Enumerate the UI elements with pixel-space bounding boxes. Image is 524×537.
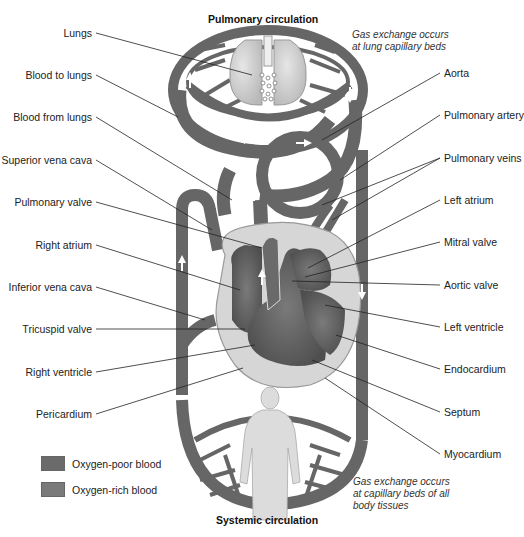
label-pulmonary-valve: Pulmonary valve bbox=[14, 196, 92, 208]
label-endocardium: Endocardium bbox=[444, 363, 506, 375]
label-right-atrium: Right atrium bbox=[35, 239, 92, 251]
pulmonary-gas-exchange-note: Gas exchange occurs at lung capillary be… bbox=[352, 29, 449, 53]
label-pericardium: Pericardium bbox=[36, 408, 92, 420]
label-mitral-valve: Mitral valve bbox=[444, 236, 497, 248]
label-aortic-valve: Aortic valve bbox=[444, 279, 498, 291]
legend-swatch-oxygen-rich bbox=[41, 482, 65, 497]
label-left-ventricle: Left ventricle bbox=[444, 321, 504, 333]
systemic-circulation-title: Systemic circulation bbox=[216, 514, 318, 526]
systemic-gas-exchange-note: Gas exchange occurs at capillary beds of… bbox=[353, 476, 450, 512]
label-pulmonary-veins: Pulmonary veins bbox=[444, 152, 522, 164]
legend-label-oxygen-poor: Oxygen-poor blood bbox=[72, 458, 161, 470]
label-myocardium: Myocardium bbox=[444, 448, 501, 460]
lungs-illustration bbox=[230, 36, 306, 105]
legend-oxygen-rich: Oxygen-rich blood bbox=[41, 482, 157, 497]
label-septum: Septum bbox=[444, 406, 480, 418]
systemic-loop-left bbox=[182, 195, 218, 395]
legend-label-oxygen-rich: Oxygen-rich blood bbox=[72, 484, 157, 496]
pulmonary-circulation-title: Pulmonary circulation bbox=[208, 13, 318, 25]
label-pulmonary-artery: Pulmonary artery bbox=[444, 109, 524, 121]
great-vessels bbox=[180, 90, 356, 245]
label-right-ventricle: Right ventricle bbox=[25, 366, 92, 378]
label-blood-from-lungs: Blood from lungs bbox=[13, 111, 92, 123]
label-blood-to-lungs: Blood to lungs bbox=[25, 69, 92, 81]
heart-illustration bbox=[216, 222, 361, 387]
legend-swatch-oxygen-poor bbox=[41, 456, 65, 471]
label-left-atrium: Left atrium bbox=[444, 194, 494, 206]
label-tricuspid-valve: Tricuspid valve bbox=[22, 323, 92, 335]
legend-oxygen-poor: Oxygen-poor blood bbox=[41, 456, 161, 471]
label-aorta: Aorta bbox=[444, 67, 469, 79]
label-superior-vena-cava: Superior vena cava bbox=[2, 154, 92, 166]
label-lungs: Lungs bbox=[63, 27, 92, 39]
label-inferior-vena-cava: Inferior vena cava bbox=[9, 281, 92, 293]
